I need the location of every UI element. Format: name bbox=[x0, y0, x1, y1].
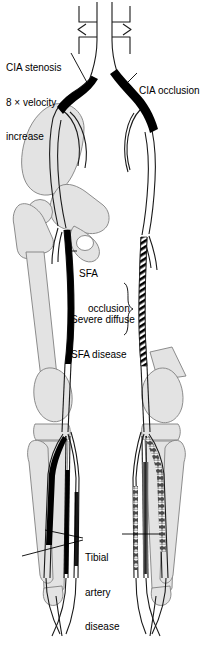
label-sfa-disease-line2: SFA disease bbox=[71, 349, 135, 361]
right-sfa-diffuse-disease-lesion bbox=[139, 237, 147, 366]
illustration-canvas: CIA stenosis 8 × velocity increase CIA o… bbox=[0, 0, 211, 662]
right-renal-arrow bbox=[123, 24, 131, 35]
left-profunda-femoris-branch bbox=[58, 232, 62, 262]
right-external-iliac-artery bbox=[149, 130, 155, 234]
left-lateral-plantar-artery bbox=[66, 578, 76, 634]
left-cia-stenosis-lesion bbox=[57, 76, 98, 114]
left-distal-femur-bone bbox=[34, 368, 72, 422]
label-sfa-disease-line1: Severe diffuse bbox=[71, 314, 135, 326]
label-tibial-disease-line3: disease bbox=[85, 621, 119, 633]
right-lateral-plantar-artery bbox=[136, 578, 146, 634]
label-cia-occlusion: CIA occlusion bbox=[139, 62, 200, 120]
left-posterior-tibial-disease-lesion bbox=[74, 492, 78, 566]
left-upper-renal-branch bbox=[79, 6, 97, 22]
right-external-iliac-artery-medial bbox=[142, 132, 148, 235]
label-cia-stenosis-line3: increase bbox=[6, 131, 62, 143]
right-lower-renal-branch bbox=[112, 37, 130, 54]
label-sfa-diffuse-disease: Severe diffuse SFA disease bbox=[71, 291, 135, 383]
label-cia-stenosis-line2: 8 × velocity bbox=[6, 97, 62, 109]
right-medial-plantar-artery bbox=[150, 596, 156, 636]
left-hemipelvis-bone bbox=[50, 184, 109, 233]
label-cia-stenosis-line1: CIA stenosis bbox=[6, 62, 62, 74]
aorta-left-wall bbox=[88, 2, 97, 84]
right-ankle-bone bbox=[151, 586, 171, 605]
label-tibial-disease-line2: artery bbox=[85, 587, 119, 599]
right-upper-renal-branch bbox=[112, 6, 130, 22]
left-lower-renal-branch bbox=[79, 37, 97, 54]
label-sfa-occlusion-line1: SFA bbox=[79, 268, 130, 280]
label-cia-stenosis: CIA stenosis 8 × velocity increase bbox=[6, 39, 62, 166]
label-tibial-disease-line1: Tibial bbox=[85, 552, 119, 564]
label-tibial-artery-disease: Tibial artery disease bbox=[85, 529, 119, 656]
left-renal-arrow bbox=[78, 24, 86, 35]
left-femur-shaft-bone bbox=[26, 252, 57, 378]
right-peroneal-disease-lesion bbox=[143, 462, 149, 574]
label-cia-occlusion-line1: CIA occlusion bbox=[139, 85, 200, 97]
cia-stenosis-leader-line bbox=[71, 53, 90, 88]
